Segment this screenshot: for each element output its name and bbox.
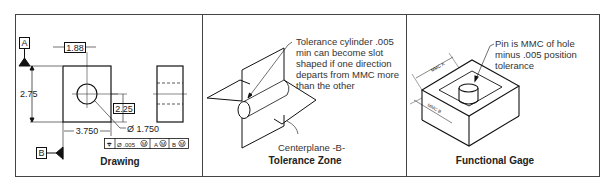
fcf-mmc-modifier: M <box>142 141 146 147</box>
dim-2-75: 2.75 <box>20 89 38 99</box>
datum-a-triangle <box>19 58 30 66</box>
gage-note-line-2: minus .005 position <box>495 49 577 60</box>
dim-3-750: 3.750 <box>76 126 99 136</box>
functional-gage-caption: Functional Gage <box>456 155 535 166</box>
datum-a-label: A <box>21 38 27 48</box>
centerplane-label: Centerplane -B- <box>278 142 345 153</box>
gage-dim-b: MMC B <box>427 103 442 115</box>
dim-2-25: 2.25 <box>115 104 133 114</box>
tolerance-zone-caption: Tolerance Zone <box>268 155 342 166</box>
figure: A B 1.88 2.75 2.25 3.750 Ø 1.750 ⌖ Ø .00… <box>0 0 614 187</box>
fcf-tolerance: Ø .005 <box>117 142 136 148</box>
tolerance-note-line-4: departs from MMC more <box>296 69 399 80</box>
tolerance-note-line-5: than the other <box>296 80 355 91</box>
dim-1-88: 1.88 <box>66 43 84 53</box>
vertical-plane <box>242 48 284 80</box>
fcf-datum-a-modifier: M <box>161 141 165 147</box>
gage-note-line-3: tolerance <box>495 60 534 71</box>
tolerance-zone-text: Tolerance cylinder .005 min can become s… <box>268 36 399 166</box>
position-icon: ⌖ <box>107 140 112 149</box>
fcf-datum-b-modifier: M <box>180 141 184 147</box>
fcf-datum-a: A <box>154 142 158 148</box>
tolerance-note-line-2: min can become slot <box>296 47 383 58</box>
datum-b-triangle <box>56 147 63 159</box>
drawing-caption: Drawing <box>100 156 139 167</box>
datum-b-label: B <box>38 148 44 158</box>
gage-pin <box>459 84 478 92</box>
tolerance-note-line-1: Tolerance cylinder .005 <box>296 36 394 47</box>
gage-dim-a: MMC A <box>430 61 445 73</box>
functional-gage-text: MMC A MMC B Pin is MMC of hole minus .00… <box>427 38 577 166</box>
dim-hole-diameter: Ø 1.750 <box>127 124 159 134</box>
tolerance-note-line-3: shaped if one direction <box>296 58 392 69</box>
gage-note-line-1: Pin is MMC of hole <box>495 38 575 49</box>
fcf-datum-b: B <box>172 142 176 148</box>
